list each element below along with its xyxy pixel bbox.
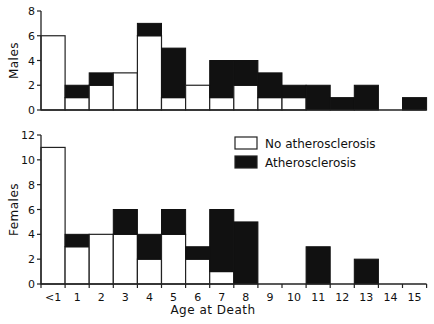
bar-atherosclerosis: [234, 61, 258, 86]
bar-no-atherosclerosis: [41, 147, 65, 284]
y-tick-label: 0: [28, 104, 35, 117]
bar-no-atherosclerosis: [162, 234, 186, 284]
bar-no-atherosclerosis: [89, 85, 113, 110]
bar-atherosclerosis: [65, 85, 89, 97]
bar-no-atherosclerosis: [137, 259, 161, 284]
bar-no-atherosclerosis: [65, 247, 89, 284]
x-tick-label: 11: [311, 291, 325, 304]
y-tick-label: 4: [28, 228, 35, 241]
x-tick-label: 10: [287, 291, 301, 304]
legend-label: Atherosclerosis: [265, 156, 356, 170]
legend-swatch-white: [235, 137, 257, 149]
x-tick-label: 9: [266, 291, 273, 304]
legend-swatch-black: [235, 156, 257, 168]
bar-atherosclerosis: [65, 234, 89, 246]
bar-atherosclerosis: [210, 210, 234, 272]
y-tick-label: 8: [28, 5, 35, 18]
bar-no-atherosclerosis: [282, 98, 306, 110]
y-tick-label: 12: [21, 129, 35, 142]
y-tick-label: 0: [28, 278, 35, 291]
bar-atherosclerosis: [306, 85, 330, 110]
bar-atherosclerosis: [137, 23, 161, 35]
bar-atherosclerosis: [330, 98, 354, 110]
bar-no-atherosclerosis: [186, 259, 210, 284]
bar-atherosclerosis: [89, 73, 113, 85]
x-tick-label: 4: [146, 291, 153, 304]
bar-atherosclerosis: [210, 61, 234, 98]
bar-no-atherosclerosis: [113, 234, 137, 284]
x-tick-label: 15: [408, 291, 422, 304]
y-tick-label: 6: [28, 204, 35, 217]
x-tick-label: 2: [98, 291, 105, 304]
x-tick-label: 12: [335, 291, 349, 304]
y-tick-label: 4: [28, 55, 35, 68]
bar-atherosclerosis: [186, 247, 210, 259]
x-tick-label: 3: [122, 291, 129, 304]
females-panel: 024681012<1123456789101112131415Females: [7, 129, 427, 304]
x-tick-label: 13: [359, 291, 373, 304]
y-tick-label: 8: [28, 179, 35, 192]
bar-no-atherosclerosis: [186, 85, 210, 110]
y-tick-label: 2: [28, 79, 35, 92]
x-tick-label: <1: [45, 291, 61, 304]
bar-no-atherosclerosis: [210, 98, 234, 110]
legend-label: No atherosclerosis: [265, 137, 376, 151]
bar-atherosclerosis: [354, 85, 378, 110]
bar-no-atherosclerosis: [258, 98, 282, 110]
histogram-figure: 02468Males024681012<11234567891011121314…: [0, 0, 434, 324]
bar-no-atherosclerosis: [41, 36, 65, 110]
males-y-label: Males: [7, 42, 21, 79]
bar-atherosclerosis: [354, 259, 378, 284]
bar-atherosclerosis: [162, 48, 186, 98]
females-y-label: Females: [7, 183, 21, 236]
bar-atherosclerosis: [113, 210, 137, 235]
bar-no-atherosclerosis: [65, 98, 89, 110]
x-tick-label: 14: [383, 291, 397, 304]
bar-atherosclerosis: [258, 73, 282, 98]
bar-no-atherosclerosis: [113, 73, 137, 110]
bar-atherosclerosis: [137, 234, 161, 259]
y-tick-label: 2: [28, 253, 35, 266]
bar-atherosclerosis: [403, 98, 427, 110]
x-tick-label: 1: [74, 291, 81, 304]
bar-no-atherosclerosis: [162, 98, 186, 110]
y-tick-label: 6: [28, 30, 35, 43]
y-tick-label: 10: [21, 154, 35, 167]
bar-atherosclerosis: [306, 247, 330, 284]
males-panel: 02468Males: [7, 5, 427, 117]
bar-atherosclerosis: [234, 222, 258, 284]
bar-no-atherosclerosis: [210, 272, 234, 284]
bar-no-atherosclerosis: [234, 85, 258, 110]
bar-no-atherosclerosis: [89, 234, 113, 284]
bar-no-atherosclerosis: [137, 36, 161, 110]
bar-atherosclerosis: [162, 210, 186, 235]
x-axis-title: Age at Death: [170, 303, 255, 317]
bar-atherosclerosis: [282, 85, 306, 97]
legend: No atherosclerosisAtherosclerosis: [235, 137, 376, 170]
